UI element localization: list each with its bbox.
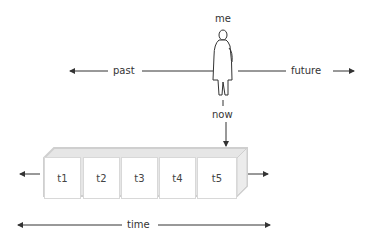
me-label: me — [215, 14, 231, 24]
time-box-t4: t4 — [159, 157, 196, 199]
time-label: time — [127, 220, 150, 230]
future-label: future — [291, 66, 321, 76]
time-box-label: t2 — [96, 173, 106, 184]
now-label: now — [212, 110, 233, 120]
time-box-t5: t5 — [197, 157, 237, 199]
person-figure-icon — [213, 30, 232, 95]
time-box-label: t5 — [212, 173, 222, 184]
time-box-label: t1 — [57, 173, 67, 184]
time-box-t1: t1 — [44, 157, 81, 199]
past-label: past — [113, 66, 135, 76]
time-box-t3: t3 — [121, 157, 158, 199]
diagram-lines — [0, 0, 368, 244]
time-box-t2: t2 — [83, 157, 120, 199]
time-box-label: t4 — [172, 173, 182, 184]
time-box-label: t3 — [134, 173, 144, 184]
